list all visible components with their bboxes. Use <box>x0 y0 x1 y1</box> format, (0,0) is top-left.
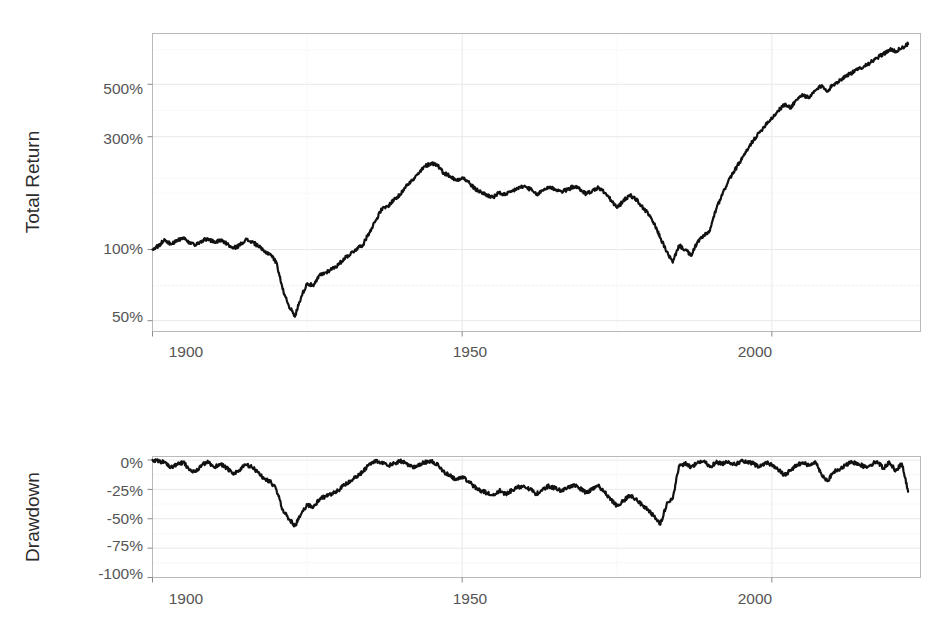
x-tick-label-1950-top: 1950 <box>453 343 488 360</box>
x-tick-label-1900-top: 1900 <box>169 343 204 360</box>
y-tick-label-100: 100% <box>103 240 143 257</box>
x-tick-label-1900-bottom: 1900 <box>169 590 204 607</box>
x-tick-label-1950-bottom: 1950 <box>453 590 488 607</box>
y-axis-title-total-return: Total Return <box>22 131 43 233</box>
x-tick-label-2000-bottom: 2000 <box>738 590 773 607</box>
y-tick-label-minus50: -50% <box>107 510 143 527</box>
y-tick-label-minus100: -100% <box>98 565 143 582</box>
y-tick-label-300: 300% <box>103 130 143 147</box>
x-tick-label-2000-top: 2000 <box>738 343 773 360</box>
dual-panel-return-drawdown-figure: 500% 300% 100% 50% 1900 1950 2000 Total … <box>0 0 949 626</box>
y-axis-title-drawdown: Drawdown <box>22 472 43 562</box>
y-tick-label-minus75: -75% <box>107 537 143 554</box>
y-tick-label-minus25: -25% <box>107 482 143 499</box>
y-tick-label-500: 500% <box>103 80 143 97</box>
y-tick-label-50: 50% <box>112 308 143 325</box>
y-tick-label-0: 0% <box>121 454 144 471</box>
